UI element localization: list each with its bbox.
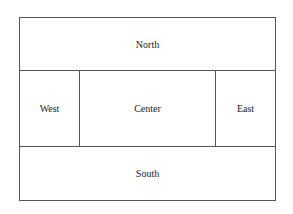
region-north: North [19,17,276,71]
center-label: Center [134,103,161,114]
region-south: South [19,146,276,201]
region-west: West [19,70,80,147]
region-east: East [215,70,276,147]
west-label: West [40,103,60,114]
north-label: North [136,39,159,50]
region-center: Center [79,70,216,147]
east-label: East [237,103,254,114]
south-label: South [136,168,159,179]
